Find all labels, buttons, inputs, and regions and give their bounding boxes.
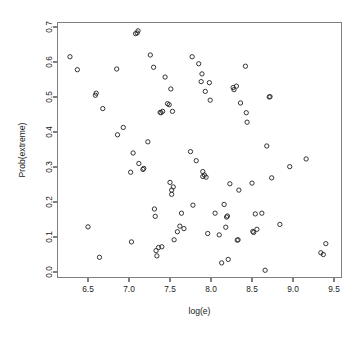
data-point xyxy=(228,182,232,186)
data-point xyxy=(244,111,248,115)
data-point xyxy=(131,151,135,155)
data-point xyxy=(250,181,254,185)
data-point xyxy=(115,133,119,137)
data-point xyxy=(146,140,150,144)
data-point xyxy=(203,89,207,93)
scatter-plot-figure: 6.57.07.58.08.59.09.50.00.10.20.30.40.50… xyxy=(0,0,359,337)
data-point xyxy=(200,72,204,76)
data-point xyxy=(168,180,172,184)
data-point xyxy=(207,81,211,85)
data-point xyxy=(163,75,167,79)
x-tick-label: 8.5 xyxy=(246,284,258,294)
data-point xyxy=(288,165,292,169)
data-point xyxy=(243,64,247,68)
data-point xyxy=(197,62,201,66)
data-point xyxy=(179,211,183,215)
x-tick-label: 9.0 xyxy=(287,284,299,294)
data-point xyxy=(270,176,274,180)
x-axis-title: log(e) xyxy=(189,306,211,316)
data-point xyxy=(68,55,72,59)
data-point xyxy=(101,106,105,110)
data-point xyxy=(170,109,174,113)
data-points-group xyxy=(68,29,328,273)
data-point xyxy=(129,240,133,244)
data-point xyxy=(191,203,195,207)
data-point xyxy=(137,161,141,165)
data-point xyxy=(188,149,192,153)
y-tick-label: 0.5 xyxy=(44,91,54,103)
data-point xyxy=(194,159,198,163)
data-point xyxy=(253,212,257,216)
data-point xyxy=(324,242,328,246)
y-tick-label: 0.0 xyxy=(44,266,54,278)
data-point xyxy=(278,222,282,226)
x-tick-label: 7.5 xyxy=(164,284,176,294)
data-point xyxy=(222,202,226,206)
x-tick-label: 7.0 xyxy=(123,284,135,294)
data-point xyxy=(217,233,221,237)
y-axis: 0.00.10.20.30.40.50.60.7 xyxy=(44,21,58,278)
data-point xyxy=(172,238,176,242)
data-point xyxy=(128,170,132,174)
data-point xyxy=(169,192,173,196)
plot-frame xyxy=(58,23,342,278)
data-point xyxy=(304,157,308,161)
x-tick-label: 6.5 xyxy=(82,284,94,294)
data-point xyxy=(190,55,194,59)
data-point xyxy=(220,261,224,265)
y-tick-label: 0.6 xyxy=(44,56,54,68)
data-point xyxy=(152,207,156,211)
data-point xyxy=(206,231,210,235)
data-point xyxy=(178,224,182,228)
x-tick-label: 8.0 xyxy=(205,284,217,294)
data-point xyxy=(265,144,269,148)
chart-canvas: 6.57.07.58.08.59.09.50.00.10.20.30.40.50… xyxy=(0,0,359,337)
y-tick-label: 0.1 xyxy=(44,231,54,243)
data-point xyxy=(226,257,230,261)
data-point xyxy=(263,268,267,272)
y-tick-label: 0.2 xyxy=(44,196,54,208)
y-axis-title: Prob(extreme) xyxy=(17,122,27,177)
data-point xyxy=(182,226,186,230)
data-point xyxy=(213,211,217,215)
data-point xyxy=(238,101,242,105)
x-tick-label: 9.5 xyxy=(328,284,340,294)
data-point xyxy=(245,120,249,124)
x-axis: 6.57.07.58.08.59.09.5 xyxy=(82,278,340,295)
data-point xyxy=(151,65,155,69)
data-point xyxy=(155,254,159,258)
data-point xyxy=(224,225,228,229)
y-tick-label: 0.7 xyxy=(44,21,54,33)
data-point xyxy=(115,67,119,71)
y-tick-label: 0.4 xyxy=(44,126,54,138)
data-point xyxy=(260,211,264,215)
data-point xyxy=(153,214,157,218)
data-point xyxy=(208,98,212,102)
data-point xyxy=(237,188,241,192)
data-point xyxy=(121,125,125,129)
data-point xyxy=(199,79,203,83)
data-point xyxy=(75,68,79,72)
data-point xyxy=(148,53,152,57)
data-point xyxy=(169,87,173,91)
data-point xyxy=(175,230,179,234)
data-point xyxy=(97,255,101,259)
data-point xyxy=(86,225,90,229)
data-point xyxy=(255,227,259,231)
y-tick-label: 0.3 xyxy=(44,161,54,173)
